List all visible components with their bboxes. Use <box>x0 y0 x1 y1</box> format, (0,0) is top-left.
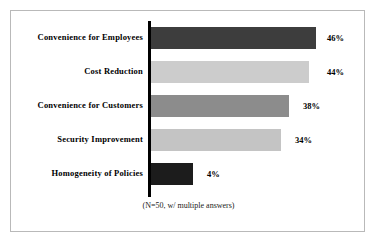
chart-frame-border: Convenience for Employees 46% Cost Reduc… <box>10 10 365 232</box>
bar-row: Security Improvement 34% <box>11 123 366 157</box>
bar-row: Convenience for Customers 38% <box>11 89 366 123</box>
bar-segment <box>151 129 281 151</box>
bar-segment <box>151 27 316 49</box>
value-label: 44% <box>327 67 344 77</box>
bar-segment <box>151 163 193 185</box>
value-label: 38% <box>303 101 320 111</box>
bar-chart-figure: Convenience for Employees 46% Cost Reduc… <box>0 0 376 243</box>
category-label: Cost Reduction <box>13 67 143 76</box>
plot-area: Convenience for Employees 46% Cost Reduc… <box>11 11 366 233</box>
bar-segment <box>151 95 289 117</box>
category-label: Convenience for Employees <box>13 33 143 42</box>
value-label: 34% <box>295 135 312 145</box>
category-label: Convenience for Customers <box>13 101 143 110</box>
chart-footnote: (N=50, w/ multiple answers) <box>11 201 366 210</box>
bar-segment <box>151 61 309 83</box>
bar-row: Homogeneity of Policies 4% <box>11 157 366 191</box>
category-label: Homogeneity of Policies <box>13 169 143 178</box>
category-label: Security Improvement <box>13 135 143 144</box>
value-label: 46% <box>327 33 344 43</box>
bar-row: Convenience for Employees 46% <box>11 21 366 55</box>
bar-row: Cost Reduction 44% <box>11 55 366 89</box>
value-label: 4% <box>207 169 220 179</box>
